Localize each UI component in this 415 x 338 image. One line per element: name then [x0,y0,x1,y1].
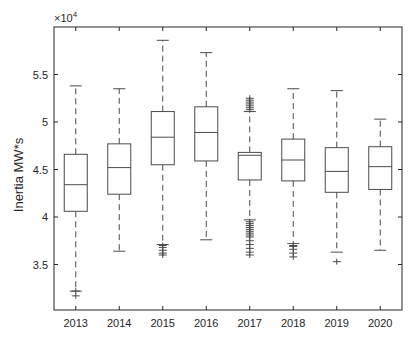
y-tick-label: 4.5 [33,164,48,176]
x-tick-label: 2017 [238,317,262,329]
y-axis-label: Inertia MW*s [11,137,26,212]
box-2017 [238,95,261,258]
y-exponent-power: 4 [73,10,78,19]
x-tick-label: 2015 [151,317,175,329]
outlier-marker [333,259,341,265]
x-tick-label: 2019 [325,317,349,329]
inertia-boxplot-chart: 3.544.555.520132014201520162017201820192… [0,0,415,338]
iqr-box [151,112,174,165]
box-2013 [64,86,87,299]
x-tick-label: 2013 [64,317,88,329]
y-tick-label: 3.5 [33,259,48,271]
axes-frame [54,27,402,310]
outlier-marker [72,293,80,299]
outlier-marker [289,254,297,260]
box-2020 [369,119,392,250]
y-tick-label: 5 [42,116,48,128]
x-tick-label: 2020 [368,317,392,329]
x-tick-label: 2016 [194,317,218,329]
y-tick-label: 5.5 [33,69,48,81]
box-2014 [108,89,131,251]
y-exponent-base: ×10 [54,12,73,24]
iqr-box [325,148,348,193]
x-tick-label: 2018 [281,317,305,329]
chart-canvas: 3.544.555.520132014201520162017201820192… [0,0,415,338]
iqr-box [195,107,218,161]
y-exponent-label: ×104 [54,10,78,24]
box-2016 [195,53,218,240]
y-tick-label: 4 [42,211,48,223]
x-tick-label: 2014 [107,317,131,329]
box-2018 [282,89,305,260]
outlier-marker [246,252,254,258]
iqr-box [238,152,261,180]
box-2015 [151,40,174,258]
plot-area [64,40,392,299]
iqr-box [369,147,392,190]
iqr-box [108,144,131,194]
iqr-box [64,154,87,211]
box-2019 [325,91,348,265]
